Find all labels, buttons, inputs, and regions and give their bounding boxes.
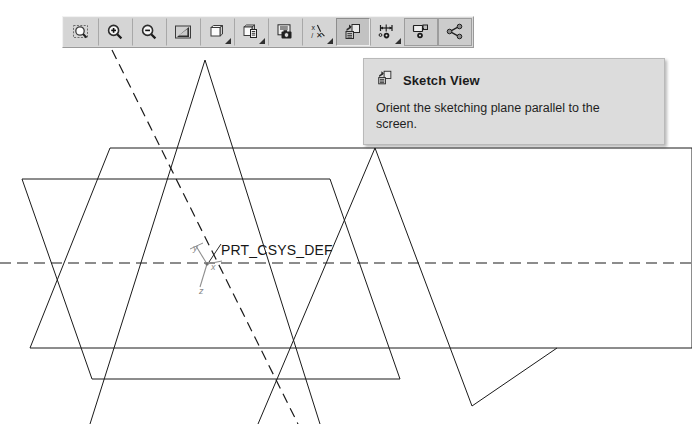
toolbar-button-saved-views[interactable]	[234, 18, 268, 46]
datum-plane-right-edge-far-a	[258, 148, 375, 424]
toolbar-button-view-manager[interactable]	[268, 18, 302, 46]
sketch-view-icon	[343, 22, 363, 42]
csys-z-letter: z	[199, 286, 204, 296]
csys-x-letter: x	[211, 262, 216, 272]
explode-view-icon	[445, 22, 465, 42]
layer-display-icon	[411, 22, 431, 42]
csys-y-letter: y	[193, 243, 198, 253]
datum-display-icon: x / ✕	[309, 22, 329, 42]
zoom-in-icon	[105, 22, 125, 42]
datum-plane-hex-edge-2	[472, 348, 557, 406]
chevron-down-icon[interactable]	[395, 38, 401, 44]
toolbar-button-explode-view[interactable]	[438, 18, 472, 46]
annotation-display-icon	[377, 22, 397, 42]
toolbar-button-display-style[interactable]	[200, 18, 234, 46]
repaint-shading-icon	[173, 22, 193, 42]
zoom-fit-icon	[71, 22, 91, 42]
svg-text:/: /	[311, 32, 313, 39]
datum-plane-hex-edge-1	[375, 148, 472, 406]
toolbar-button-zoom-in[interactable]	[98, 18, 132, 46]
csys-label-leader	[209, 244, 221, 262]
chevron-down-icon[interactable]	[327, 38, 333, 44]
datum-plane-top-outline	[30, 148, 692, 348]
datum-plane-right-edge-left	[90, 60, 205, 424]
csys-name-label[interactable]: PRT_CSYS_DEF	[221, 242, 333, 258]
datum-plane-top[interactable]	[30, 148, 692, 348]
toolbar-button-refit[interactable]	[64, 18, 98, 46]
view-manager-icon	[275, 22, 295, 42]
tooltip-title: Sketch View	[403, 73, 480, 88]
view-toolbar[interactable]: x / ✕	[62, 16, 474, 48]
svg-text:✕: ✕	[316, 31, 323, 40]
toolbar-button-annotation-display[interactable]	[370, 18, 404, 46]
toolbar-button-repaint[interactable]	[166, 18, 200, 46]
sketch-view-icon	[376, 69, 394, 91]
zoom-out-icon	[139, 22, 159, 42]
tooltip-header: Sketch View	[376, 69, 652, 91]
toolbar-button-zoom-out[interactable]	[132, 18, 166, 46]
toolbar-button-datum-display[interactable]: x / ✕	[302, 18, 336, 46]
tooltip-description: Orient the sketching plane parallel to t…	[376, 100, 644, 132]
tooltip-sketch-view: Sketch View Orient the sketching plane p…	[363, 58, 665, 145]
datum-plane-right-hex[interactable]	[375, 148, 557, 406]
toolbar-button-sketch-view[interactable]	[336, 18, 370, 46]
csys-origin-dot	[205, 262, 208, 265]
chevron-down-icon[interactable]	[225, 38, 231, 44]
chevron-down-icon[interactable]	[259, 38, 265, 44]
display-style-icon	[207, 22, 227, 42]
datum-plane-front[interactable]	[22, 179, 400, 379]
datum-plane-front-outline	[22, 179, 400, 379]
saved-views-icon	[241, 22, 261, 42]
csys-axis-z	[200, 264, 207, 287]
toolbar-button-layer-display[interactable]	[404, 18, 438, 46]
diagonal-centerline[interactable]	[112, 50, 298, 424]
